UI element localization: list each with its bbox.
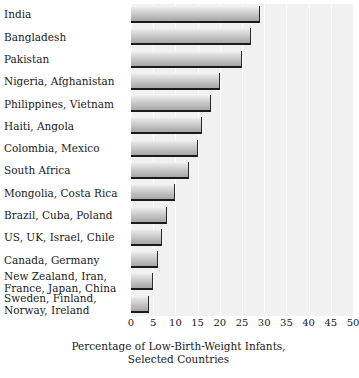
category-label: Bangladesh [4, 32, 123, 44]
bar [131, 6, 260, 23]
bar [131, 73, 220, 90]
bar [131, 251, 158, 268]
x-tick-label: 15 [191, 316, 204, 329]
bars-container [131, 4, 353, 316]
category-label: Sweden, Finland, Norway, Ireland [4, 293, 123, 316]
bar [131, 162, 189, 179]
chart-caption: Percentage of Low-Birth-Weight Infants, … [0, 340, 357, 366]
category-label-column: IndiaBangladeshPakistanNigeria, Afghanis… [0, 4, 127, 316]
bar [131, 28, 251, 45]
category-label: Nigeria, Afghanistan [4, 76, 123, 88]
category-label: Haiti, Angola [4, 121, 123, 133]
bar [131, 273, 153, 290]
category-label: Colombia, Mexico [4, 143, 123, 155]
plot-area [131, 4, 353, 316]
bar [131, 51, 242, 68]
category-label: Mongolia, Costa Rica [4, 188, 123, 200]
x-tick-label: 5 [150, 316, 156, 329]
category-label: South Africa [4, 165, 123, 177]
bar [131, 117, 202, 134]
bar [131, 95, 211, 112]
bar [131, 229, 162, 246]
category-label: Brazil, Cuba, Poland [4, 210, 123, 222]
x-tick-label: 30 [258, 316, 271, 329]
gridline [353, 4, 354, 316]
caption-line-2: Selected Countries [0, 353, 357, 366]
x-tick-label: 10 [169, 316, 182, 329]
x-tick-label: 0 [128, 316, 134, 329]
category-label: Pakistan [4, 54, 123, 66]
category-label: India [4, 9, 123, 21]
category-label: Philippines, Vietnam [4, 99, 123, 111]
x-tick-label: 45 [324, 316, 337, 329]
category-label: New Zealand, Iran, France, Japan, China [4, 271, 123, 294]
bar [131, 296, 149, 313]
x-tick-label: 20 [213, 316, 226, 329]
category-label: Canada, Germany [4, 255, 123, 267]
category-label: US, UK, Israel, Chile [4, 232, 123, 244]
x-tick-label: 25 [236, 316, 249, 329]
x-axis-tick-labels: 05101520253035404550 [131, 316, 353, 330]
bar [131, 207, 167, 224]
x-tick-label: 50 [347, 316, 359, 329]
x-tick-label: 35 [280, 316, 293, 329]
bar [131, 184, 175, 201]
x-tick-label: 40 [302, 316, 315, 329]
caption-line-1: Percentage of Low-Birth-Weight Infants, [0, 340, 357, 353]
bar [131, 140, 198, 157]
